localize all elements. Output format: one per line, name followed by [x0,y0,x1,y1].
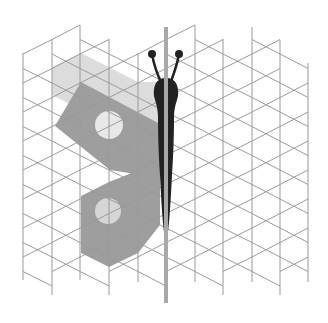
figure-canvas: Butterfly on triangular grid with mirror… [0,0,328,323]
left-wings [52,53,160,267]
antenna-left-tip [148,50,156,58]
antenna-right-tip [175,50,183,58]
lower-wing-spot [95,198,121,224]
butterfly-diagram [0,0,328,323]
